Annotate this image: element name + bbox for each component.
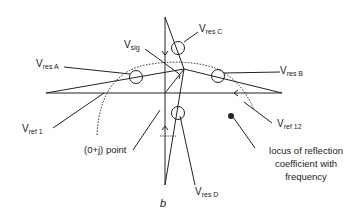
- label-v-res-b: Vres B: [280, 66, 303, 77]
- locus-annotation: locus of reflection coefficient with fre…: [256, 144, 356, 183]
- label-v-res-c: Vres C: [199, 24, 222, 35]
- v-res-d-vector: [165, 69, 184, 185]
- phasor-diagram: [0, 0, 357, 216]
- label-zero-j-point: (0+j) point: [84, 145, 127, 155]
- label-v-ref-1: Vref 1: [22, 124, 43, 135]
- figure-label: b: [160, 197, 166, 209]
- label-v-ref-12: Vref 12: [277, 119, 302, 130]
- label-v-res-a: Vres A: [36, 59, 59, 70]
- label-v-res-d: Vres D: [195, 187, 218, 198]
- locus-point: [228, 113, 234, 119]
- label-v-sig: Vsig: [124, 40, 140, 51]
- v-res-d-leader: [180, 116, 195, 185]
